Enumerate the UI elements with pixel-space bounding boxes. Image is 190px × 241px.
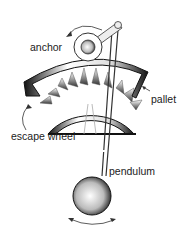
pendulum-swing-arrow	[70, 219, 114, 224]
escape-wheel-teeth	[40, 68, 142, 110]
escapement-illustration	[0, 0, 190, 241]
escape-wheel-label: escape wheel	[11, 131, 75, 142]
pendulum-bob	[73, 177, 111, 215]
wheel-rotation-arrow	[22, 106, 28, 130]
anchor-label: anchor	[30, 42, 62, 53]
pallet-label: pallet	[151, 94, 176, 105]
pendulum-rod	[102, 30, 118, 176]
pendulum-label: pendulum	[109, 166, 155, 177]
